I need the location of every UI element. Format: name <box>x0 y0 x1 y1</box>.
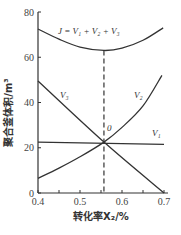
x-tick-label: 0.5 <box>74 196 87 207</box>
y-axis-title: 聚合釜体积/m³ <box>2 78 14 147</box>
y-tick-label: 60 <box>24 52 34 63</box>
x-tick-label: 0.6 <box>116 196 129 207</box>
series-v3 <box>38 81 164 193</box>
labels-group: J = V₁ + V₂ + V₃V₃V₂V₁0 <box>58 26 161 138</box>
x-axis-title: 转化率X₂/% <box>73 210 129 222</box>
series-group <box>38 28 164 193</box>
label-v1: V₁ <box>152 128 161 138</box>
x-tick-label: 0.4 <box>32 196 45 207</box>
label-optimum-point: 0 <box>107 123 112 133</box>
y-tick-label: 20 <box>24 142 34 153</box>
y-tick-label: 40 <box>24 97 34 108</box>
label-v3: V₃ <box>60 90 69 100</box>
label-j-formula: J = V₁ + V₂ + V₃ <box>58 26 120 36</box>
chart: 0204060800.40.50.60.7转化率X₂/%聚合釜体积/m³ J =… <box>0 0 181 235</box>
label-v2: V₂ <box>134 90 143 100</box>
series-v2 <box>38 75 162 178</box>
x-tick-label: 0.7 <box>158 196 171 207</box>
y-tick-label: 80 <box>24 7 34 18</box>
